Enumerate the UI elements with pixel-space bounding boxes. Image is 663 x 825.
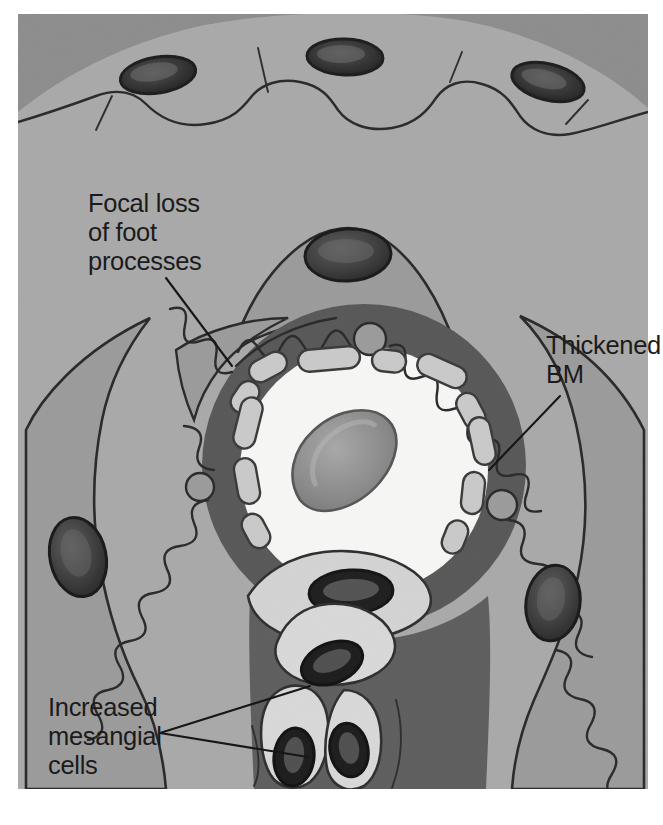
increased-mesangial-line-1: Increased <box>48 693 157 721</box>
capsule-nucleus-2 <box>306 38 383 77</box>
foot-process-crosssection-right <box>487 490 517 520</box>
increased-mesangial-line-3: cells <box>48 751 98 779</box>
increased-mesangial-line-2: mesangial <box>48 722 162 750</box>
endothelial-segment <box>297 345 361 372</box>
thickened-bm-line-1: Thickened <box>546 331 661 359</box>
focal-loss-line-3: processes <box>88 247 202 275</box>
endothelial-segment <box>460 471 486 515</box>
foot-process-crosssection-left <box>186 473 214 501</box>
podocyte-top-chromatin <box>318 239 374 263</box>
glomerulus-diagram: Focal loss of foot processes Thickened B… <box>0 0 663 825</box>
endothelial-segment <box>371 348 407 373</box>
focal-loss-line-2: of foot <box>88 218 157 246</box>
thickened-bm-line-2: BM <box>546 360 584 388</box>
plate <box>18 13 648 800</box>
figure-root: Focal loss of foot processes Thickened B… <box>0 0 663 825</box>
focal-loss-line-1: Focal loss <box>88 189 200 217</box>
